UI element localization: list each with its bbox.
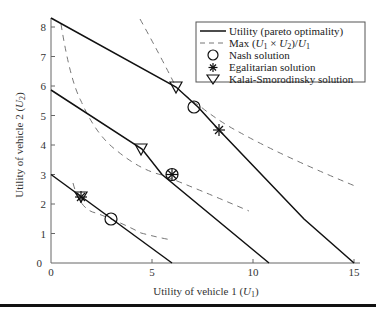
- x-axis-label: Utility of vehicle 1 (U1): [153, 285, 259, 299]
- x-tick-labels: 0 5 10 15: [48, 266, 360, 278]
- y-tick: 7: [41, 51, 47, 63]
- legend-nash: Nash solution: [229, 49, 290, 61]
- x-tick: 15: [349, 266, 361, 278]
- legend-egal: Egalitarian solution: [229, 61, 316, 73]
- x-tick: 0: [48, 266, 54, 278]
- y-tick: 3: [41, 169, 47, 181]
- y-tick: 0: [37, 257, 43, 269]
- utility-frontier-2: [51, 90, 269, 263]
- y-tick: 5: [41, 110, 47, 122]
- y-tick: 2: [41, 198, 47, 210]
- y-tick: 8: [41, 21, 47, 33]
- x-tick: 10: [248, 266, 260, 278]
- y-tick: 4: [41, 139, 47, 151]
- x-tick: 5: [149, 266, 155, 278]
- chart: 0 1 2 3 4 5 6 7 8 0 5 10 15 Utility of v…: [0, 0, 376, 312]
- y-axis-label: Utility of vehicle 2 (U2): [13, 92, 27, 198]
- y-tick-labels: 0 1 2 3 4 5 6 7 8: [37, 21, 47, 269]
- utility-frontier-1: [51, 175, 172, 264]
- solution-markers: [75, 82, 225, 225]
- y-tick: 1: [41, 228, 47, 240]
- legend: Utility (pareto optimality) Max (U1 × U2…: [196, 22, 365, 85]
- legend-ks: Kalai-Smorodinsky solution: [229, 73, 354, 85]
- y-tick: 6: [41, 80, 47, 92]
- bottom-rule: [0, 304, 376, 307]
